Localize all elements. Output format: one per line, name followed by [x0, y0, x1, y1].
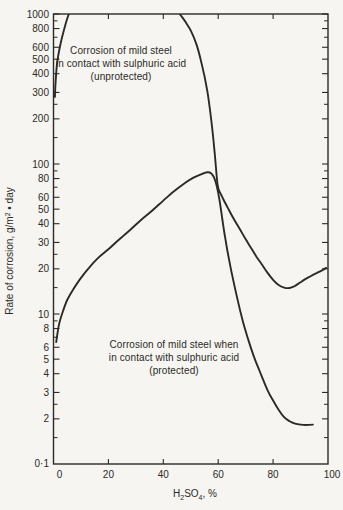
y-tick-label: 5: [43, 354, 49, 365]
y-tick-label: 6: [43, 342, 49, 353]
y-tick-label: 10: [38, 309, 50, 320]
y-tick-label: 200: [32, 113, 49, 124]
x-tick-label: 100: [324, 469, 341, 480]
x-tick-label: 20: [103, 469, 115, 480]
annotation-line: in contact with sulphuric acid: [84, 351, 264, 364]
y-tick-label: 3: [43, 387, 49, 398]
y-axis-bottom-label: 0·1: [35, 458, 50, 469]
y-axis-title: Rate of corrosion, g/m2 • day: [4, 187, 16, 314]
y-tick-label: 8: [43, 323, 49, 334]
annotation-unprotected: Corrosion of mild steel in contact with …: [31, 44, 211, 83]
y-tick-label: 20: [38, 263, 50, 274]
annotation-line: in contact with sulphuric acid: [31, 57, 211, 70]
curve-protected: [56, 172, 313, 425]
x-tick-label: 0: [57, 469, 63, 480]
y-tick-label: 40: [38, 218, 50, 229]
y-tick-label: 800: [32, 23, 49, 34]
x-tick-label: 80: [268, 469, 280, 480]
x-tick-label: 40: [158, 469, 170, 480]
annotation-line: Corrosion of mild steel when: [84, 338, 264, 351]
x-axis-title: H2SO4, %: [173, 488, 217, 501]
annotation-line: (protected): [84, 364, 264, 377]
y-tick-label: 100: [32, 159, 49, 170]
annotation-line: Corrosion of mild steel: [31, 44, 211, 57]
y-tick-label: 1000: [27, 9, 50, 20]
y-tick-label: 300: [32, 87, 49, 98]
annotation-line: (unprotected): [31, 70, 211, 83]
y-tick-label: 4: [43, 368, 49, 379]
x-tick-label: 60: [213, 469, 225, 480]
y-tick-label: 2: [43, 413, 49, 424]
y-tick-label: 60: [38, 192, 50, 203]
y-tick-label: 30: [38, 237, 50, 248]
y-tick-label: 80: [38, 173, 50, 184]
scanned-figure-page: 1000800600500400300200100806050403020108…: [0, 0, 343, 510]
y-tick-label: 50: [38, 204, 50, 215]
annotation-protected: Corrosion of mild steel when in contact …: [84, 338, 264, 377]
